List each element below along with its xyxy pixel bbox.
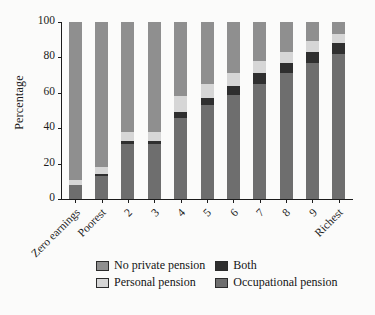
bar-segment-occupational-pension: [253, 84, 266, 199]
bar-segment-occupational-pension: [227, 95, 240, 199]
bar-segment-no-private-pension: [148, 22, 161, 132]
x-tick: [339, 199, 340, 203]
y-tick-label: 40: [44, 120, 56, 132]
bar[interactable]: [280, 22, 293, 199]
plot-area: 020406080100 Zero earningsPoorest2345678…: [62, 22, 352, 199]
x-tick-label: 2: [122, 206, 135, 219]
y-tick-label: 60: [44, 85, 56, 97]
x-tick-label: 3: [148, 206, 161, 219]
bar-segment-both: [121, 141, 134, 145]
legend-item: No private pension: [96, 258, 205, 273]
bar-segment-both: [253, 73, 266, 84]
bar-segment-personal-pension: [227, 73, 240, 85]
bar-segment-both: [306, 52, 319, 63]
legend-item: Both: [215, 258, 337, 273]
y-tick-mark: [58, 93, 62, 94]
x-tick: [75, 199, 76, 203]
x-tick-label: Zero earnings: [28, 206, 81, 259]
y-tick-mark: [58, 128, 62, 129]
bar[interactable]: [174, 22, 187, 199]
bar-segment-no-private-pension: [306, 22, 319, 41]
bar-segment-no-private-pension: [201, 22, 214, 84]
bar-segment-occupational-pension: [201, 105, 214, 199]
bar-segment-both: [174, 112, 187, 117]
y-axis-line: [61, 22, 62, 200]
legend-item: Personal pension: [96, 275, 205, 290]
bar-segment-occupational-pension: [69, 185, 82, 199]
x-tick: [181, 199, 182, 203]
bar-segment-both: [148, 141, 161, 145]
bar-segment-personal-pension: [148, 132, 161, 141]
x-tick-label: 4: [175, 206, 188, 219]
bar[interactable]: [148, 22, 161, 199]
x-tick: [102, 199, 103, 203]
bar-segment-no-private-pension: [280, 22, 293, 52]
x-tick: [260, 199, 261, 203]
bar-segment-both: [95, 174, 108, 176]
bar-segment-no-private-pension: [253, 22, 266, 61]
x-tick-label: 7: [254, 206, 267, 219]
legend-label: Personal pension: [114, 275, 196, 290]
bar-segment-occupational-pension: [332, 54, 345, 199]
legend-swatch-no-private-pension: [96, 261, 109, 271]
bar-segment-no-private-pension: [95, 22, 108, 167]
legend-label: Both: [233, 258, 256, 273]
bar[interactable]: [69, 22, 82, 199]
bar[interactable]: [201, 22, 214, 199]
x-tick: [233, 199, 234, 203]
bar-segment-no-private-pension: [332, 22, 345, 34]
y-tick-label: 100: [38, 14, 55, 26]
bar-segment-personal-pension: [121, 132, 134, 141]
bar-segment-occupational-pension: [121, 144, 134, 199]
bar-segment-both: [227, 86, 240, 95]
chart-legend: No private pensionBothPersonal pensionOc…: [96, 258, 338, 290]
y-tick-mark: [58, 199, 62, 200]
y-tick-mark: [58, 164, 62, 165]
bar-segment-personal-pension: [332, 34, 345, 43]
x-tick-label: 5: [201, 206, 214, 219]
bar-segment-occupational-pension: [174, 118, 187, 199]
x-tick-label: 6: [227, 206, 240, 219]
x-tick: [128, 199, 129, 203]
bar[interactable]: [121, 22, 134, 199]
bar-segment-personal-pension: [280, 52, 293, 63]
y-axis-title: Percentage: [12, 53, 27, 153]
y-tick-mark: [58, 22, 62, 23]
y-tick-label: 80: [44, 49, 56, 61]
bar-segment-no-private-pension: [69, 22, 82, 180]
bar-segment-no-private-pension: [174, 22, 187, 96]
bar-segment-personal-pension: [174, 96, 187, 112]
legend-item: Occupational pension: [215, 275, 337, 290]
bar[interactable]: [332, 22, 345, 199]
bar[interactable]: [227, 22, 240, 199]
y-tick-label: 20: [44, 156, 56, 168]
bar[interactable]: [306, 22, 319, 199]
x-tick-label: Richest: [312, 206, 345, 239]
legend-label: No private pension: [114, 258, 205, 273]
x-tick: [154, 199, 155, 203]
bar-segment-personal-pension: [253, 61, 266, 73]
bar-segment-both: [201, 98, 214, 105]
legend-swatch-both: [215, 261, 228, 271]
bar-segment-occupational-pension: [306, 63, 319, 199]
bar-segment-personal-pension: [95, 167, 108, 174]
bar-segment-personal-pension: [306, 41, 319, 52]
bar-segment-personal-pension: [201, 84, 214, 98]
x-tick-label: 8: [280, 206, 293, 219]
legend-swatch-personal-pension: [96, 278, 109, 288]
bar-segment-personal-pension: [69, 180, 82, 185]
bar-segment-both: [280, 63, 293, 74]
x-tick: [286, 199, 287, 203]
x-tick: [312, 199, 313, 203]
y-tick-mark: [58, 57, 62, 58]
bar-segment-occupational-pension: [148, 144, 161, 199]
legend-swatch-occupational-pension: [215, 278, 228, 288]
bar-segment-occupational-pension: [280, 73, 293, 199]
x-tick: [207, 199, 208, 203]
chart-page: Percentage 020406080100 Zero earningsPoo…: [0, 0, 375, 315]
bar[interactable]: [253, 22, 266, 199]
bar-segment-no-private-pension: [227, 22, 240, 73]
x-tick-label: 9: [306, 206, 319, 219]
bar[interactable]: [95, 22, 108, 199]
y-tick-label: 0: [49, 191, 55, 203]
